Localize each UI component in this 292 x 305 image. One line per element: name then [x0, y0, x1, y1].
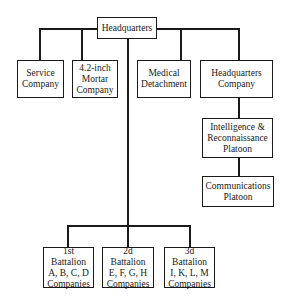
hq-company-box: Headquarters Company [200, 60, 273, 98]
bn3-label: 3d Battalion I, K, L, M Companies [167, 246, 212, 290]
comms-platoon-label: Communications Platoon [206, 181, 271, 203]
service-drop-line [39, 28, 41, 60]
comms-connector-line [238, 157, 240, 176]
service-company-label: Service Company [22, 68, 59, 90]
bn1-drop-line [67, 225, 69, 247]
ir-connector-line [238, 97, 240, 118]
bn1-label: 1st Battalion A, B, C, D Companies [46, 246, 91, 290]
mortar-company-label: 4.2-inch Mortar Company [77, 63, 114, 96]
hq-company-drop-line [238, 28, 240, 60]
headquarters-box: Headquarters [97, 17, 157, 39]
service-company-box: Service Company [17, 60, 64, 98]
bn3-box: 3d Battalion I, K, L, M Companies [164, 247, 215, 288]
comms-platoon-box: Communications Platoon [202, 176, 274, 207]
medical-detachment-label: Medical Detachment [141, 68, 187, 90]
hq-company-label: Headquarters Company [211, 68, 262, 90]
mortar-drop-line [81, 28, 83, 60]
ir-platoon-label: Intelligence & Reconnaissance Platoon [207, 122, 268, 155]
battalion-horizontal-connector [67, 225, 190, 227]
headquarters-label: Headquarters [102, 23, 153, 34]
bn3-drop-line [189, 225, 191, 247]
battalion-trunk-line [127, 38, 129, 247]
medical-drop-line [180, 28, 182, 60]
ir-platoon-box: Intelligence & Reconnaissance Platoon [202, 118, 273, 158]
medical-detachment-box: Medical Detachment [137, 60, 191, 98]
bn2-label: 2d Battalion E, F, G, H Companies [105, 246, 151, 290]
bn1-box: 1st Battalion A, B, C, D Companies [43, 247, 94, 288]
bn2-box: 2d Battalion E, F, G, H Companies [102, 247, 154, 288]
mortar-company-box: 4.2-inch Mortar Company [72, 60, 118, 98]
